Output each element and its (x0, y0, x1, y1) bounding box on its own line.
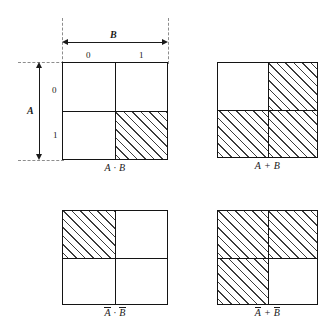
caption-or: A + B (217, 160, 318, 171)
dimension-arrow-b-left (62, 39, 68, 45)
row-value-0: 0 (52, 86, 57, 95)
dimension-line-b (64, 42, 166, 43)
caption-nor-part-b: B (119, 307, 125, 319)
caption-or-part-b: B (274, 160, 280, 171)
kmap-or-cell-bottom-left (218, 110, 268, 157)
row-value-1: 1 (53, 131, 58, 140)
kmap-nor-cell-bottom-left (63, 258, 115, 305)
dimension-label-b: B (110, 30, 117, 40)
kmap-or-horizontal-divider (218, 110, 317, 111)
kmap-or-cell-top-left (218, 63, 268, 110)
kmap-nor-cell-bottom-right (115, 258, 167, 305)
caption-nor-operator: · (111, 307, 119, 318)
kmap-nand-cell-bottom-right (268, 258, 318, 305)
dimension-arrow-a-bottom (36, 154, 42, 160)
kmap-and-cell-bottom-left (63, 111, 115, 159)
kmap-and-cell-top-left (63, 63, 115, 111)
kmap-and-horizontal-divider (63, 111, 167, 112)
dimension-label-a: A (27, 106, 34, 116)
kmap-and (62, 62, 168, 160)
kmap-nand-cell-top-right (268, 211, 318, 258)
kmap-nand-cell-top-left (218, 211, 268, 258)
caption-and-part-b: B (119, 162, 125, 173)
column-value-1: 1 (139, 51, 144, 60)
dimension-line-a (39, 64, 40, 158)
dashed-guide-bottom-horizontal (18, 160, 64, 161)
caption-and-operator: · (111, 162, 119, 173)
caption-nand: A + B (217, 307, 318, 319)
caption-nand-part-b: B (274, 307, 280, 319)
caption-nor: A · B (62, 307, 168, 319)
kmap-and-cell-bottom-right (115, 111, 167, 159)
kmap-nand-cell-bottom-left (218, 258, 268, 305)
column-value-0: 0 (86, 51, 91, 60)
boolean-diagram-figure: B A 0 1 0 1 A · B (0, 0, 336, 331)
kmap-nor-cell-top-left (63, 211, 115, 258)
kmap-nor-horizontal-divider (63, 258, 167, 259)
kmap-or (217, 62, 318, 158)
kmap-nand-horizontal-divider (218, 258, 317, 259)
dimension-arrow-a-top (36, 62, 42, 68)
kmap-or-cell-top-right (268, 63, 318, 110)
kmap-or-cell-bottom-right (268, 110, 318, 157)
dimension-arrow-b-right (162, 39, 168, 45)
kmap-nor (62, 210, 168, 305)
kmap-and-cell-top-right (115, 63, 167, 111)
caption-nand-operator: + (261, 307, 274, 318)
kmap-nand (217, 210, 318, 305)
caption-and: A · B (62, 162, 168, 173)
kmap-nor-cell-top-right (115, 211, 167, 258)
caption-or-operator: + (261, 160, 274, 171)
dashed-guide-right-vertical (168, 18, 169, 64)
